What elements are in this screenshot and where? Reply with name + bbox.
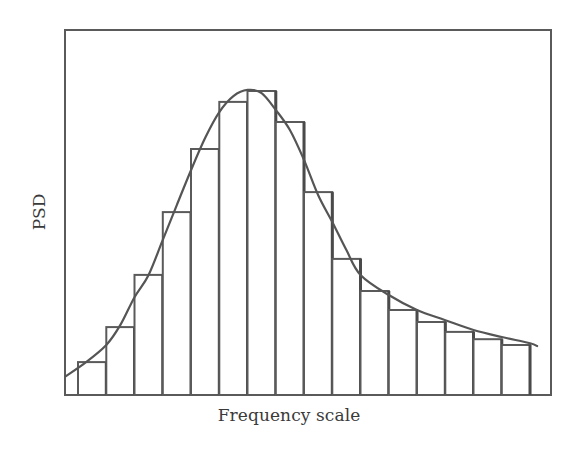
x-axis-label: Frequency scale: [0, 405, 578, 425]
histogram-bar: [248, 91, 276, 395]
histogram-bar: [361, 291, 389, 395]
y-axis-label: PSD: [29, 194, 49, 231]
histogram-bar: [135, 275, 163, 395]
histogram-bar: [417, 322, 445, 395]
histogram-bar: [389, 310, 417, 395]
histogram-bar: [78, 362, 106, 395]
histogram-bar: [191, 149, 219, 395]
histogram-bar: [106, 327, 134, 395]
histogram-bars: [78, 91, 530, 395]
histogram-bar: [332, 259, 360, 395]
histogram-bar: [219, 102, 247, 395]
histogram-bar: [474, 339, 502, 395]
histogram-bar: [163, 212, 191, 395]
psd-chart: [0, 0, 578, 451]
histogram-bar: [276, 122, 304, 395]
histogram-bar: [502, 345, 530, 395]
histogram-bar: [445, 332, 473, 395]
histogram-bar: [304, 192, 332, 395]
